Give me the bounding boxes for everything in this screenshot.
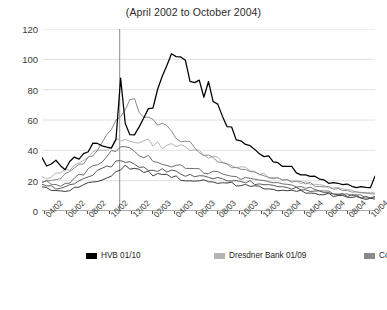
x-axis-tick-mark	[217, 211, 218, 214]
legend-item[interactable]: Commerzbank 10/09	[364, 250, 387, 263]
y-axis-tick-label: 0	[33, 206, 38, 217]
legend-label: Dresdner Bank 01/09	[229, 252, 306, 260]
y-axis-tick-label: 60	[27, 115, 38, 126]
y-axis-tick-label: 120	[22, 24, 38, 35]
y-axis-tick-label: 20	[27, 175, 38, 186]
y-axis-tick-label: 40	[27, 145, 38, 156]
plot-area	[42, 29, 375, 211]
y-axis-tick-label: 80	[27, 84, 38, 95]
x-axis-tick-mark	[174, 211, 175, 214]
legend-label: HVB 01/10	[101, 252, 141, 260]
legend-label: Commerzbank 10/09	[379, 252, 387, 260]
x-axis-tick-mark	[109, 211, 110, 214]
legend-item[interactable]: Dresdner Bank 01/09	[214, 250, 364, 263]
chart-title: (April 2002 to October 2004)	[0, 6, 387, 18]
x-axis-labels: 04/0206/0208/0210/0212/0202/0304/0306/03…	[42, 213, 375, 247]
x-axis-tick-mark	[131, 211, 132, 214]
series-line	[42, 54, 375, 188]
chart-canvas	[42, 29, 375, 211]
y-axis-tick-label: 100	[22, 54, 38, 65]
y-axis-labels: 020406080100120	[0, 29, 38, 211]
x-axis-tick-mark	[261, 211, 262, 214]
x-axis-tick-mark	[347, 211, 348, 214]
chart-figure: (April 2002 to October 2004) 02040608010…	[0, 0, 387, 310]
x-axis-tick-mark	[196, 211, 197, 214]
series-line	[42, 99, 375, 194]
legend-swatch-icon	[86, 253, 97, 259]
x-axis-tick-mark	[282, 211, 283, 214]
x-axis-tick-mark	[326, 211, 327, 214]
x-axis-tick-mark	[152, 211, 153, 214]
chart-legend: HVB 01/10Dresdner Bank 01/09Commerzbank …	[86, 250, 366, 288]
x-axis-tick-mark	[239, 211, 240, 214]
x-axis-tick-mark	[87, 211, 88, 214]
series-line	[42, 165, 375, 199]
legend-swatch-icon	[364, 253, 375, 259]
x-axis-tick-mark	[304, 211, 305, 214]
legend-swatch-icon	[214, 253, 225, 259]
legend-item[interactable]: HVB 01/10	[86, 250, 214, 263]
x-axis-tick-mark	[44, 211, 45, 214]
x-axis-tick-mark	[66, 211, 67, 214]
x-axis-tick-mark	[369, 211, 370, 214]
